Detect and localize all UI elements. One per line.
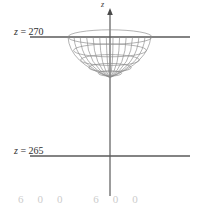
- z-axis: [107, 8, 113, 196]
- plane-label-upper-equals: =: [18, 26, 29, 37]
- clipped-bottom-text: 600 600: [18, 195, 188, 204]
- plane-label-lower-equals: =: [18, 145, 29, 156]
- plane-label-lower: z = 265: [14, 145, 44, 156]
- plane-label-upper: z = 270: [14, 26, 44, 37]
- math-figure: z z = 270 z = 265 600 600: [0, 0, 207, 204]
- plane-label-upper-value: 270: [29, 26, 44, 37]
- plane-label-lower-value: 265: [29, 145, 44, 156]
- z-axis-label: z: [101, 0, 104, 9]
- z-axis-arrow-icon: [107, 8, 113, 15]
